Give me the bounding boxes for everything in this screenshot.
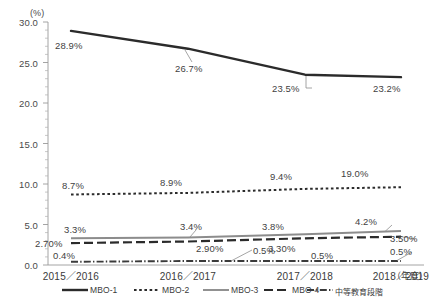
y-axis-major-ticks (43, 22, 48, 265)
data-label-mbo3-2015: 3.3% (64, 224, 86, 235)
series-line-mbo-1 (71, 31, 401, 77)
legend-item-mbo-2[interactable]: MBO-2 (162, 285, 189, 295)
series-line-secondary-education (71, 261, 401, 262)
data-label-mbo4-2018: 3.50% (390, 233, 417, 244)
y-tick-10: 10.0 (8, 179, 38, 190)
x-tick-2016-2017: 2016／2017 (147, 268, 229, 283)
legend-item-mbo-1[interactable]: MBO-1 (90, 285, 117, 295)
y-tick-25: 25.0 (8, 58, 38, 69)
leader-mbo1-p1 (185, 50, 192, 62)
data-label-mbo4-2015: 2.70% (35, 238, 62, 249)
leader-mbo1-p2 (306, 76, 312, 88)
data-label-secondary-2015: 0.4% (53, 250, 75, 261)
data-label-secondary-2018: 0.5% (390, 246, 412, 257)
legend-item-mbo-4[interactable]: MBO-4 (292, 285, 319, 295)
data-label-mbo2-2015: 8.7% (62, 180, 84, 191)
data-label-mbo1-2015: 28.9% (55, 40, 82, 51)
y-tick-30: 30.0 (8, 17, 38, 28)
y-tick-5: 5.0 (8, 220, 38, 231)
data-label-mbo3-2018: 4.2% (355, 216, 377, 227)
chart-legend: MBO-1 MBO-2 MBO-3 MBO-4 中等教育段階 (0, 283, 430, 297)
series-line-mbo-2 (71, 187, 401, 194)
data-label-mbo3-2016: 3.4% (180, 221, 202, 232)
y-tick-20: 20.0 (8, 98, 38, 109)
line-chart: (%) 30.0 25.0 20.0 15.0 10.0 5.0 0.0 201… (0, 0, 430, 300)
y-tick-15: 15.0 (8, 139, 38, 150)
legend-item-mbo-3[interactable]: MBO-3 (231, 285, 258, 295)
data-label-mbo3-2017: 3.8% (262, 221, 284, 232)
leader-sec-p1 (232, 250, 252, 261)
data-label-secondary-2017: 0.5% (311, 250, 333, 261)
data-label-secondary-2016: 0.5% (253, 245, 275, 256)
data-label-mbo1-2017: 23.5% (272, 83, 299, 94)
data-label-mbo1-2018: 23.2% (373, 83, 400, 94)
leader-lines (185, 50, 415, 261)
legend-item-secondary-education[interactable]: 中等教育段階 (335, 286, 384, 297)
data-label-mbo2-2018: 19.0% (341, 168, 368, 179)
data-label-mbo1-2016: 26.7% (175, 63, 202, 74)
data-label-mbo4-2016: 2.90% (196, 243, 223, 254)
x-axis-unit-label: （年度） (392, 269, 428, 282)
x-tick-2017-2018: 2017／2018 (264, 268, 346, 283)
data-label-mbo2-2017: 9.4% (270, 171, 292, 182)
data-label-mbo2-2016: 8.9% (160, 177, 182, 188)
x-tick-2015-2016: 2015／2016 (30, 268, 112, 283)
